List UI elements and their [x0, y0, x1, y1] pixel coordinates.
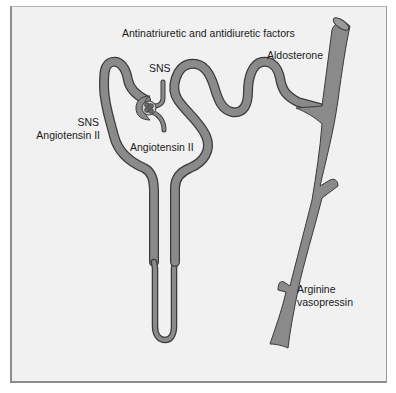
glomerulus [136, 96, 156, 120]
label-avp-line1: Arginine [297, 283, 336, 295]
label-sns-top: SNS [149, 62, 171, 74]
label-avp-line2: vasopressin [297, 296, 353, 308]
figure-title: Antinatriuretic and antidiuretic factors [122, 27, 295, 39]
loop-of-henle [154, 262, 175, 340]
label-angiotensin-left: Angiotensin II [28, 129, 100, 141]
nephron-diagram [0, 0, 396, 393]
label-angiotensin-center: Angiotensin II [130, 141, 194, 153]
distal-tubule [174, 62, 320, 262]
label-sns-left: SNS [75, 116, 99, 128]
label-aldosterone: Aldosterone [267, 49, 323, 61]
proximal-tubule [104, 62, 154, 262]
